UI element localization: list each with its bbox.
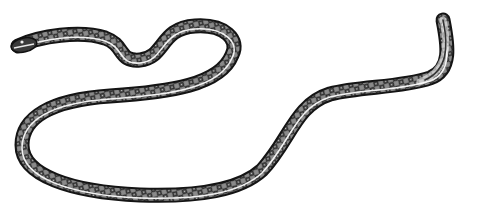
eye-icon — [20, 40, 23, 43]
snake-drawing — [0, 0, 478, 221]
snake-head — [10, 35, 38, 54]
snake-body-pattern — [18, 20, 447, 195]
snake-illustration: snake — [0, 0, 478, 221]
